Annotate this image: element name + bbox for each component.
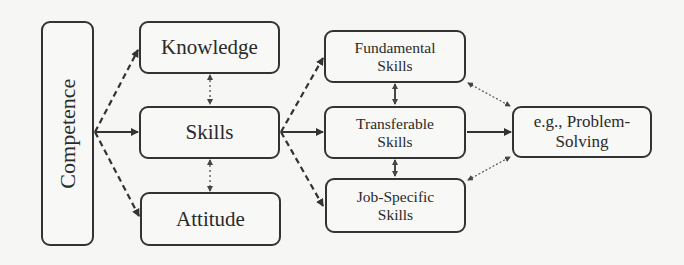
- node-skills: Skills: [139, 106, 280, 159]
- node-problem-solving: e.g., Problem- Solving: [512, 106, 652, 158]
- node-job-specific-skills-label: Job-Specific Skills: [357, 188, 434, 224]
- node-knowledge: Knowledge: [139, 21, 280, 74]
- edge-fundamental-problemsolving: [468, 83, 510, 106]
- node-attitude: Attitude: [140, 192, 281, 246]
- node-competence-label: Competence: [55, 79, 80, 189]
- node-knowledge-label: Knowledge: [161, 35, 258, 59]
- node-transferable-skills-label: Transferable Skills: [356, 115, 434, 151]
- node-fundamental-skills-label: Fundamental Skills: [355, 39, 436, 75]
- edge-skills-fundamental: [281, 58, 323, 132]
- node-job-specific-skills: Job-Specific Skills: [325, 178, 466, 233]
- edge-competence-attitude: [95, 132, 139, 216]
- node-skills-label: Skills: [186, 120, 234, 144]
- edge-skills-jobspecific: [281, 132, 323, 206]
- node-transferable-skills: Transferable Skills: [324, 106, 466, 159]
- edge-competence-knowledge: [95, 50, 138, 132]
- edge-jobspecific-problemsolving: [468, 157, 510, 180]
- node-fundamental-skills: Fundamental Skills: [324, 30, 466, 83]
- competence-diagram: Competence Knowledge Skills Attitude Fun…: [0, 0, 684, 265]
- node-attitude-label: Attitude: [176, 207, 245, 231]
- node-problem-solving-label: e.g., Problem- Solving: [534, 112, 630, 151]
- node-competence: Competence: [41, 21, 94, 246]
